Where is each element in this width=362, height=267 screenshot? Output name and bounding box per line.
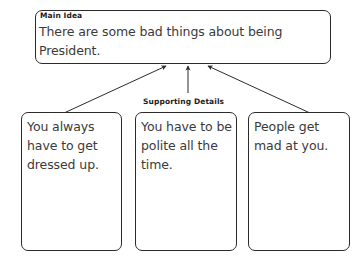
supporting-details-label: Supporting Details	[143, 97, 224, 106]
main-idea-text: There are some bad things about being Pr…	[39, 22, 325, 60]
supporting-detail-text-1: You always have to get dressed up.	[27, 117, 119, 174]
main-idea-label: Main Idea	[40, 11, 82, 21]
supporting-detail-text-2: You have to be polite all the time.	[141, 117, 235, 174]
graphic-organizer: Main Idea There are some bad things abou…	[0, 0, 362, 267]
supporting-detail-text-3: People get mad at you.	[254, 117, 348, 155]
